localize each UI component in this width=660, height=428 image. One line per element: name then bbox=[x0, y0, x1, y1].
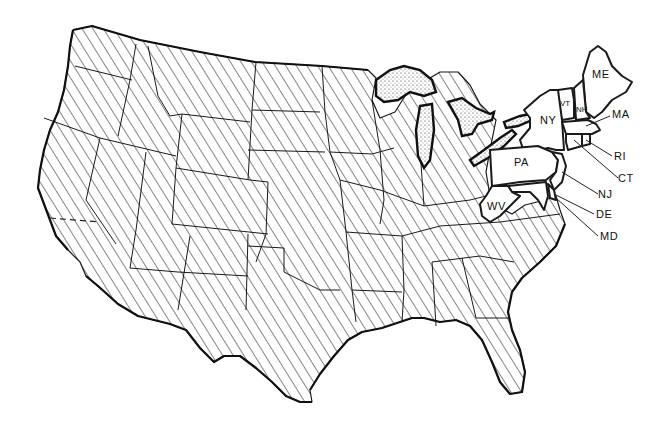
label-nh: NH bbox=[576, 105, 588, 114]
label-nj: NJ bbox=[598, 188, 612, 200]
label-ny: NY bbox=[540, 114, 556, 126]
label-vt: VT bbox=[560, 99, 570, 108]
label-pa: PA bbox=[514, 156, 529, 168]
label-ma: MA bbox=[612, 108, 630, 120]
label-ct: CT bbox=[618, 172, 634, 184]
label-md: MD bbox=[600, 230, 618, 242]
state-connecticut bbox=[566, 134, 582, 150]
label-de: DE bbox=[596, 208, 612, 220]
label-wv: WV bbox=[487, 200, 506, 212]
label-ri: RI bbox=[614, 150, 626, 162]
us-map: ME VT NH NY PA WV MA RI CT NJ DE MD bbox=[0, 0, 660, 428]
lake-michigan bbox=[416, 104, 434, 168]
label-me: ME bbox=[592, 68, 610, 80]
